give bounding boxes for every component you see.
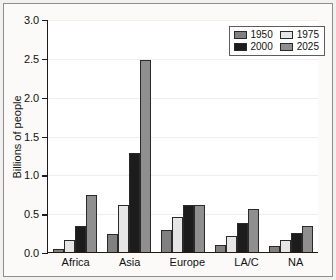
y-axis-title: Billions of people	[9, 20, 25, 253]
y-axis-tick-label: 2.0	[24, 92, 39, 104]
legend-entry-2025: 2025	[280, 42, 319, 52]
bar-asia-1950	[107, 234, 118, 252]
y-axis-tick-label: 1.5	[24, 131, 39, 143]
bar-na-2025	[302, 226, 313, 252]
bar-asia-1975	[118, 205, 129, 252]
chart-legend: 1950197520002025	[229, 26, 326, 56]
legend-label-2000: 2000	[251, 42, 273, 52]
y-axis-tick	[42, 253, 48, 254]
bar-la-c-1950	[215, 245, 226, 252]
legend-swatch-1975	[280, 31, 293, 39]
bar-africa-2000	[75, 226, 86, 252]
bar-group-africa	[53, 20, 97, 252]
y-axis-tick-label: 0.0	[24, 247, 39, 259]
legend-label-1950: 1950	[251, 30, 273, 40]
legend-swatch-1950	[234, 31, 247, 39]
bar-na-1975	[280, 240, 291, 252]
bar-na-2000	[291, 233, 302, 252]
bar-asia-2000	[129, 153, 140, 252]
y-axis-tick-label: 2.5	[24, 53, 39, 65]
y-axis-tick-label: 3.0	[24, 14, 39, 26]
bar-africa-1975	[64, 240, 75, 252]
x-axis-label-na: NA	[288, 256, 303, 268]
bar-na-1950	[269, 246, 280, 252]
legend-entry-1975: 1975	[280, 30, 319, 40]
bar-europe-2000	[183, 205, 194, 252]
legend-label-2025: 2025	[297, 42, 319, 52]
x-axis-label-europe: Europe	[170, 256, 205, 268]
legend-entry-1950: 1950	[234, 30, 273, 40]
bar-africa-1950	[53, 249, 64, 252]
y-axis-tick-label: 1.0	[24, 169, 39, 181]
bar-group-europe	[161, 20, 205, 252]
x-axis-label-africa: Africa	[62, 256, 90, 268]
legend-entry-2000: 2000	[234, 42, 273, 52]
bar-europe-1950	[161, 230, 172, 252]
x-axis-label-asia: Asia	[119, 256, 140, 268]
bar-europe-2025	[194, 205, 205, 252]
bar-group-asia	[107, 20, 151, 252]
bar-africa-2025	[86, 195, 97, 252]
y-axis-tick-label: 0.5	[24, 208, 39, 220]
bar-europe-1975	[172, 217, 183, 252]
x-axis-labels: AfricaAsiaEuropeLA/CNA	[47, 256, 318, 268]
y-axis-title-label: Billions of people	[11, 95, 23, 178]
legend-label-1975: 1975	[297, 30, 319, 40]
bar-asia-2025	[140, 60, 151, 252]
legend-swatch-2025	[280, 43, 293, 51]
x-axis-label-la-c: LA/C	[234, 256, 258, 268]
bar-la-c-2025	[248, 209, 259, 252]
bar-la-c-1975	[226, 236, 237, 252]
chart-figure: Billions of people 0.00.51.01.52.02.53.0…	[0, 0, 336, 280]
legend-swatch-2000	[234, 43, 247, 51]
bar-la-c-2000	[237, 223, 248, 252]
